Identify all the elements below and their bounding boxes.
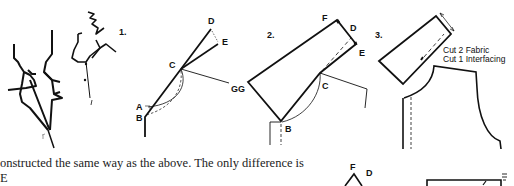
point-d2-label: D	[350, 23, 357, 33]
point-b2-label: B	[285, 124, 292, 134]
point-g-label: G	[231, 84, 238, 94]
point-d-label: D	[208, 16, 215, 26]
point-g2-label: G	[238, 84, 245, 94]
point-c2-label: C	[322, 81, 329, 91]
point-e2-label: E	[359, 48, 365, 58]
paragraph-line-1: onstructed the same way as the above. Th…	[0, 156, 330, 171]
point-f-label: F	[322, 13, 328, 23]
point-f3-label: F	[350, 162, 356, 172]
point-b-label: B	[136, 113, 143, 123]
point-a-label: A	[136, 102, 143, 112]
point-e-label: E	[222, 37, 228, 47]
step-number-1: 1.	[119, 27, 127, 37]
paragraph-line-2: E	[0, 171, 330, 186]
step-number-2: 2.	[267, 30, 275, 40]
lapel-sketch	[8, 12, 116, 148]
point-d3-label: D	[366, 168, 373, 178]
cut-interfacing-note: Cut 1 Interfacing	[443, 54, 506, 64]
document-page: 1. D E C A B G 2. F D E C	[0, 0, 514, 186]
step-number-3: 3.	[375, 30, 383, 40]
figure-3	[379, 13, 501, 149]
figure-2	[248, 20, 367, 145]
point-c-label: C	[169, 60, 176, 70]
body-paragraph: onstructed the same way as the above. Th…	[0, 156, 330, 186]
figure-1	[145, 29, 229, 137]
